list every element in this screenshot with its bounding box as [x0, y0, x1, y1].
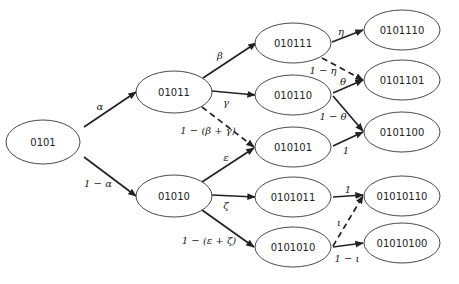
edge-probability-label: β	[216, 50, 223, 61]
edge-line	[212, 91, 255, 95]
node-010110: 010110	[255, 75, 331, 115]
node-0101101: 0101101	[364, 60, 440, 100]
node-label: 0101100	[380, 127, 425, 138]
edge-probability-label: α	[97, 101, 104, 112]
node-label: 01010100	[377, 238, 428, 249]
edge-010111-to-0101110	[332, 30, 363, 42]
node-label: 01011	[158, 87, 190, 98]
node-label: 010110	[274, 90, 312, 101]
node-label: 01010110	[377, 191, 428, 202]
node-label: 0101	[30, 137, 55, 148]
node-label: 0101011	[271, 192, 316, 203]
node-01010100: 01010100	[364, 223, 440, 263]
node-0101100: 0101100	[364, 112, 440, 152]
edge-probability-label: ζ	[223, 200, 229, 211]
edge-probability-label: 1 − η	[309, 65, 336, 76]
edge-line	[332, 30, 363, 42]
probability-tree-diagram: 0101010110101001011101011001010101010110…	[0, 0, 459, 284]
edge-line	[212, 195, 255, 197]
nodes-layer: 0101010110101001011101011001010101010110…	[6, 10, 440, 267]
edge-01011-to-010110	[212, 91, 255, 95]
node-label: 01010	[158, 191, 190, 202]
node-label: 0101110	[380, 25, 425, 36]
node-010111: 010111	[255, 23, 331, 63]
edge-line	[84, 92, 136, 127]
node-010101: 010101	[255, 127, 331, 167]
edge-line	[333, 195, 363, 197]
edge-01010-to-0101011	[212, 195, 255, 197]
edge-probability-label: γ	[223, 97, 229, 108]
edge-probability-label: 1 − (β + γ)	[180, 125, 235, 136]
edge-0101010-to-01010100	[333, 243, 363, 247]
edge-line	[333, 80, 363, 93]
node-0101110: 0101110	[364, 10, 440, 50]
edge-line	[333, 243, 363, 247]
edge-01011-to-010111	[203, 43, 256, 78]
edge-0101-to-01010	[84, 157, 136, 196]
edge-probability-label: 1	[343, 145, 349, 156]
edge-0101-to-01011	[84, 92, 136, 127]
node-01011: 01011	[136, 71, 212, 113]
node-label: 010101	[274, 142, 312, 153]
node-0101011: 0101011	[255, 177, 331, 217]
node-01010110: 01010110	[364, 176, 440, 216]
edge-probability-label: 1 − ι	[334, 253, 359, 264]
node-label: 0101010	[271, 242, 316, 253]
edge-line	[84, 157, 136, 196]
edge-probability-label: 1 − α	[84, 178, 112, 189]
edge-probability-label: 1 − (ε + ζ)	[182, 235, 237, 246]
node-0101010: 0101010	[255, 227, 331, 267]
node-label: 0101101	[380, 75, 425, 86]
edge-probability-label: ι	[337, 217, 341, 228]
edge-probability-label: η	[338, 26, 344, 37]
edge-0101011-to-01010110	[333, 195, 363, 197]
edge-probability-label: 1	[345, 184, 351, 195]
node-label: 010111	[274, 38, 312, 49]
edge-probability-label: ε	[223, 152, 228, 163]
edge-010110-to-0101101	[333, 80, 363, 93]
edge-line	[203, 43, 256, 78]
node-01010: 01010	[136, 175, 212, 217]
edge-probability-label: θ	[340, 76, 346, 87]
edge-probability-label: 1 − θ	[319, 111, 346, 122]
node-0101: 0101	[6, 120, 80, 164]
